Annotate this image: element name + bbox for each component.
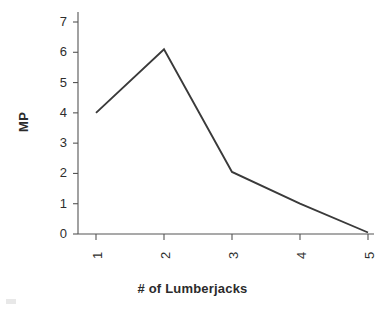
- y-tick-label-4: 4: [49, 106, 67, 119]
- x-tick-label-2: 2: [159, 252, 172, 259]
- y-tick-label-1: 1: [49, 197, 67, 210]
- y-tick-label-2: 2: [49, 166, 67, 179]
- tick-marks: [73, 22, 368, 240]
- x-tick-label-3: 3: [227, 252, 240, 259]
- y-tick-label-7: 7: [49, 15, 67, 28]
- y-tick-label-3: 3: [49, 136, 67, 149]
- y-tick-label-0: 0: [49, 227, 67, 240]
- chart-figure: 01234567 12345 MP # of Lumberjacks: [0, 0, 385, 309]
- y-tick-label-6: 6: [49, 45, 67, 58]
- x-axis-title: # of Lumberjacks: [0, 281, 385, 296]
- x-tick-label-5: 5: [363, 252, 376, 259]
- y-tick-label-5: 5: [49, 76, 67, 89]
- x-tick-label-4: 4: [295, 252, 308, 259]
- data-series-line: [96, 49, 368, 232]
- axes: [78, 12, 374, 234]
- y-axis-title: MP: [16, 112, 31, 132]
- scan-artifact: [6, 299, 16, 304]
- x-tick-label-1: 1: [91, 252, 104, 259]
